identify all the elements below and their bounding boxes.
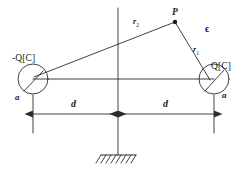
- r2-distance-line: [34, 22, 175, 77]
- r2-subscript: 2: [136, 22, 139, 28]
- dipole-diagram-figure: -Q[C] Q[C] a a P r2 r1 ϵ d d: [0, 0, 245, 174]
- ground-hatch: [96, 155, 101, 163]
- ground-hatch: [111, 155, 116, 163]
- r2-distance-label: r2: [133, 18, 139, 28]
- ground-hatch: [106, 155, 111, 163]
- right-charge-label: Q[C]: [211, 62, 231, 72]
- left-separation-label: d: [71, 99, 76, 109]
- field-point-marker: [173, 20, 177, 24]
- ground-hatch: [101, 155, 106, 163]
- ground-hatch: [121, 155, 126, 163]
- ground-hatch: [116, 155, 121, 163]
- ground-hatch: [131, 155, 136, 163]
- right-radius-label: a: [222, 91, 227, 100]
- left-radius-tick: [24, 71, 43, 91]
- left-radius-label: a: [15, 93, 20, 102]
- permittivity-label: ϵ: [205, 24, 209, 34]
- r1-distance-label: r1: [193, 46, 199, 56]
- right-separation-label: d: [163, 99, 168, 109]
- right-radius-tick: [205, 70, 224, 91]
- left-charge-label: -Q[C]: [12, 54, 35, 64]
- ground-hatch: [126, 155, 131, 163]
- r1-subscript: 1: [196, 50, 199, 56]
- field-point-label: P: [172, 8, 178, 18]
